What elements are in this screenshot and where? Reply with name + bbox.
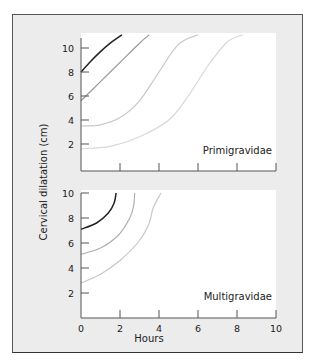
y-tick-label: 4 xyxy=(68,115,74,126)
y-tick-label: 2 xyxy=(68,139,74,150)
x-tick-label: 10 xyxy=(270,323,282,334)
y-tick-label: 10 xyxy=(62,43,74,54)
multigravidae-label: Multigravidae xyxy=(204,291,272,302)
y-axis-title: Cervical dilatation (cm) xyxy=(38,123,49,240)
x-axis-title: Hours xyxy=(134,333,163,344)
y-tick-label: 8 xyxy=(68,213,74,224)
x-tick-label: 6 xyxy=(195,323,201,334)
labour-progress-chart: 246810 Primigravidae 246810 0246810 Mult… xyxy=(0,0,314,364)
primigravidae-panel: 246810 Primigravidae xyxy=(62,33,276,171)
x-tick-label: 2 xyxy=(117,323,123,334)
y-tick-label: 8 xyxy=(68,67,74,78)
y-tick-label: 6 xyxy=(68,238,74,249)
y-tick-label: 2 xyxy=(68,288,74,299)
y-tick-label: 4 xyxy=(68,263,74,274)
primigravidae-label: Primigravidae xyxy=(203,145,272,156)
x-tick-label: 8 xyxy=(234,323,240,334)
y-tick-label: 6 xyxy=(68,91,74,102)
x-tick-label: 0 xyxy=(78,323,84,334)
multigravidae-panel: 246810 0246810 Multigravidae xyxy=(62,188,282,335)
y-tick-label: 10 xyxy=(62,188,74,199)
